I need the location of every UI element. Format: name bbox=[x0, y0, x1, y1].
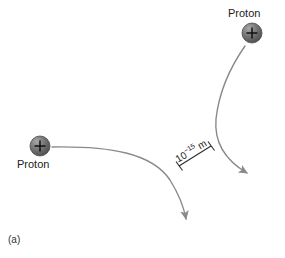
proton-top-label: Proton bbox=[228, 8, 260, 19]
scale-bar-tick-end bbox=[208, 142, 215, 151]
proton-top bbox=[242, 23, 262, 43]
trajectory-left-proton bbox=[52, 147, 186, 219]
proton-left-label: Proton bbox=[17, 159, 49, 170]
proton-left bbox=[30, 136, 50, 156]
proton-scattering-diagram bbox=[0, 0, 285, 258]
trajectory-top-proton bbox=[216, 46, 247, 173]
panel-label: (a) bbox=[8, 235, 20, 245]
